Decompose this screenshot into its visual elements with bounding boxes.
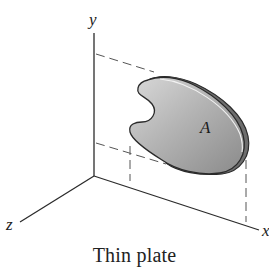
- x-axis: [94, 176, 259, 230]
- upper-projection-line: [96, 54, 154, 72]
- y-axis-label: y: [87, 10, 97, 29]
- x-axis-label: x: [261, 221, 269, 240]
- plate-area-label: A: [199, 118, 211, 137]
- z-axis: [20, 176, 94, 222]
- plate-shape: [130, 77, 245, 174]
- z-axis-label: z: [5, 215, 13, 234]
- figure-caption: Thin plate: [0, 244, 269, 267]
